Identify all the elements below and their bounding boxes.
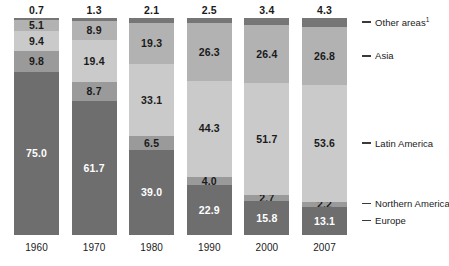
bar-segment-value: 61.7 [83,163,104,174]
bar-segment[interactable]: 26.8 [302,27,347,85]
bar-segment-value: 6.5 [144,138,159,149]
bar-segment-value: 39.0 [141,187,162,198]
bar-segment[interactable]: 15.8 [244,201,289,235]
bar-segment-value: 8.7 [86,86,101,97]
x-axis-tick-label: 1970 [62,242,127,253]
legend-item[interactable]: Europe [362,215,406,226]
bar-segment[interactable]: 51.7 [244,83,289,195]
bar-group[interactable]: 2.526.344.34.022.91990 [187,0,232,266]
bar-segment-value: 26.3 [199,47,220,58]
bar-segment-value: 33.1 [141,95,162,106]
bar-segment[interactable]: 53.6 [302,85,347,201]
legend-item[interactable]: Northern America [362,198,449,209]
legend-dash-icon [362,220,371,222]
bar-segment[interactable]: 9.4 [14,31,59,51]
bar-segment-value: 9.8 [29,56,44,67]
bar-segment-value: 26.4 [256,49,277,60]
stacked-bar-chart: 0.75.19.49.875.019601.38.919.48.761.7197… [0,0,449,266]
bar-stack: 26.451.72.715.8 [244,18,289,235]
bar-group[interactable]: 2.119.333.16.539.01980 [129,0,174,266]
bar-segment-value: 5.1 [29,20,44,31]
legend-dash-icon [362,203,371,205]
bar-segment[interactable]: 26.4 [244,25,289,82]
bar-top-value: 1.3 [72,4,117,16]
bar-stack: 19.333.16.539.0 [129,18,174,235]
legend-item[interactable]: Latin America [362,138,433,149]
x-axis-tick-label: 2007 [292,242,357,253]
bar-segment-value: 51.7 [256,134,277,145]
legend-label: Other areas1 [375,17,429,28]
bar-segment[interactable]: 44.3 [187,81,232,177]
bar-stack: 5.19.49.875.0 [14,18,59,235]
bar-segment[interactable]: 9.8 [14,51,59,72]
legend-dash-icon [362,21,371,23]
legend-label: Latin America [375,138,433,149]
bar-segment-value: 13.1 [314,216,335,227]
bar-segment-value: 22.9 [199,205,220,216]
bar-segment[interactable] [302,18,347,27]
legend-label: Europe [375,215,406,226]
bar-segment[interactable]: 8.9 [72,21,117,40]
bar-stack: 26.344.34.022.9 [187,18,232,235]
bar-segment-value: 15.8 [256,213,277,224]
bar-segment-value: 9.4 [29,36,44,47]
bar-segment[interactable]: 19.4 [72,40,117,82]
bar-top-value: 2.5 [187,4,232,16]
bar-segment[interactable]: 26.3 [187,23,232,80]
x-axis-tick-label: 1960 [4,242,69,253]
bar-segment[interactable]: 22.9 [187,185,232,235]
bar-group[interactable]: 1.38.919.48.761.71970 [72,0,117,266]
bar-stack: 26.853.62.213.1 [302,18,347,235]
bar-segment[interactable]: 13.1 [302,207,347,235]
x-axis-tick-label: 1990 [177,242,242,253]
bar-stack: 8.919.48.761.7 [72,18,117,235]
bar-segment-value: 19.3 [141,38,162,49]
legend-item[interactable]: Other areas1 [362,17,429,28]
legend-label: Asia [375,50,394,61]
bar-group[interactable]: 4.326.853.62.213.12007 [302,0,347,266]
x-axis-tick-label: 1980 [119,242,184,253]
bar-segment-value: 4.0 [202,177,217,186]
bar-segment[interactable]: 61.7 [72,101,117,235]
bar-segment-value: 75.0 [26,148,47,159]
bar-segment[interactable]: 39.0 [129,150,174,235]
bar-top-value: 2.1 [129,4,174,16]
bar-segment-value: 8.9 [86,25,101,36]
bar-segment-value: 26.8 [314,51,335,62]
bar-top-value: 0.7 [14,4,59,16]
legend-label: Northern America [375,198,449,209]
bar-segment[interactable]: 8.7 [72,82,117,101]
legend-footnote-marker: 1 [426,16,430,23]
bar-segment[interactable]: 5.1 [14,20,59,31]
bar-top-value: 4.3 [302,4,347,16]
bar-segment[interactable]: 19.3 [129,23,174,65]
bar-segment[interactable] [244,18,289,25]
bar-segment[interactable]: 4.0 [187,177,232,186]
bar-segment[interactable]: 75.0 [14,72,59,235]
legend-item[interactable]: Asia [362,50,394,61]
bar-segment-value: 44.3 [199,123,220,134]
bar-group[interactable]: 3.426.451.72.715.82000 [244,0,289,266]
bar-top-value: 3.4 [244,4,289,16]
legend-dash-icon [362,55,371,57]
bar-segment-value: 53.6 [314,138,335,149]
bar-segment[interactable]: 6.5 [129,136,174,150]
bar-segment[interactable]: 33.1 [129,64,174,136]
bar-segment-value: 19.4 [83,56,104,67]
x-axis-tick-label: 2000 [234,242,299,253]
bar-group[interactable]: 0.75.19.49.875.01960 [14,0,59,266]
legend-dash-icon [362,142,371,144]
chart-legend: Other areas1AsiaLatin AmericaNorthern Am… [362,0,449,266]
plot-area: 0.75.19.49.875.019601.38.919.48.761.7197… [0,0,360,266]
